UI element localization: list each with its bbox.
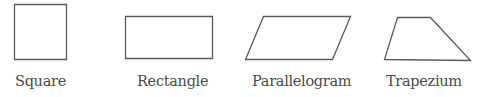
rectangle-shape [126,17,213,59]
trapezium-label: Trapezium [386,72,462,90]
parallelogram-shape [246,17,351,60]
square-label: Square [15,72,66,90]
rectangle-label: Rectangle [137,72,208,90]
square-shape [15,5,67,60]
parallelogram-label: Parallelogram [252,72,351,90]
trapezium-shape [385,18,471,61]
quadrilaterals-diagram: Square Rectangle Parallelogram Trapezium [0,0,481,97]
